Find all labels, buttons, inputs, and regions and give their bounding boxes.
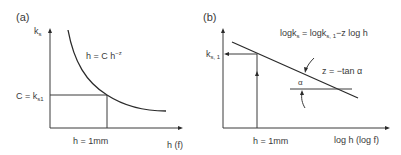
panel-b-x-axis-label: log h (log f) bbox=[334, 135, 379, 145]
panel-a-x-axis-label: h (f) bbox=[167, 140, 183, 150]
slope-formula: z = −tan α bbox=[322, 66, 362, 76]
panel-b-y-marker-label: ks, 1 bbox=[206, 49, 221, 60]
panel-b-x-marker-label: h = 1mm bbox=[253, 136, 288, 146]
x-axis-arrowhead-icon bbox=[178, 126, 183, 130]
panel-a-curve-formula: h = C h−z bbox=[86, 50, 122, 61]
up-arrowhead-icon bbox=[255, 71, 259, 76]
power-law-curve bbox=[68, 30, 166, 111]
panel-b: (b) ks, 1 logks = logks, 1−z log h α z =… bbox=[203, 11, 390, 146]
y-axis-arrowhead-icon bbox=[221, 28, 225, 33]
x-axis-arrowhead-icon bbox=[385, 126, 390, 130]
panel-a: (a) ks h = C h−z C = ks1 h = 1mm h (f) bbox=[16, 11, 183, 150]
slope-pointer-arrowhead-icon bbox=[304, 67, 308, 73]
panel-b-line-formula: logks = logks, 1−z log h bbox=[280, 28, 368, 39]
angle-pointer-arrow bbox=[302, 93, 305, 108]
panel-a-x-marker-label: h = 1mm bbox=[73, 136, 108, 146]
panel-a-label: (a) bbox=[16, 11, 29, 23]
left-arrowhead-icon bbox=[224, 52, 229, 56]
y-axis-arrowhead-icon bbox=[48, 28, 52, 33]
angle-pointer-arrowhead-icon bbox=[300, 90, 304, 95]
panel-b-label: (b) bbox=[203, 11, 216, 23]
panel-a-y-axis-label: ks bbox=[34, 26, 42, 37]
figure: (a) ks h = C h−z C = ks1 h = 1mm h (f) (… bbox=[0, 0, 401, 155]
panel-a-y-marker-label: C = ks1 bbox=[16, 91, 44, 102]
angle-label: α bbox=[298, 78, 303, 87]
